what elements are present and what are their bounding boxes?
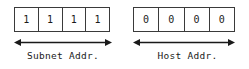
host-addr-label: Host Addr. — [126, 50, 249, 61]
subnet-addr-label: Subnet Addr. — [0, 50, 126, 61]
subnet-bit-group: 1 1 1 1 — [14, 7, 110, 32]
bit-cell: 0 — [210, 8, 234, 31]
host-span-arrow-icon — [133, 38, 235, 47]
bit-cell: 1 — [63, 8, 87, 31]
host-bit-group: 0 0 0 0 — [133, 7, 235, 32]
bit-cell: 1 — [15, 8, 39, 31]
subnet-span-arrow-icon — [14, 38, 112, 47]
bit-cell: 1 — [86, 8, 109, 31]
bit-field-diagram: 1 1 1 1 0 0 0 0 Subnet Addr. Host Addr. — [0, 0, 249, 69]
bit-cell: 1 — [39, 8, 63, 31]
bit-cell: 0 — [134, 8, 159, 31]
bit-cell: 0 — [185, 8, 210, 31]
bit-cell: 0 — [159, 8, 184, 31]
